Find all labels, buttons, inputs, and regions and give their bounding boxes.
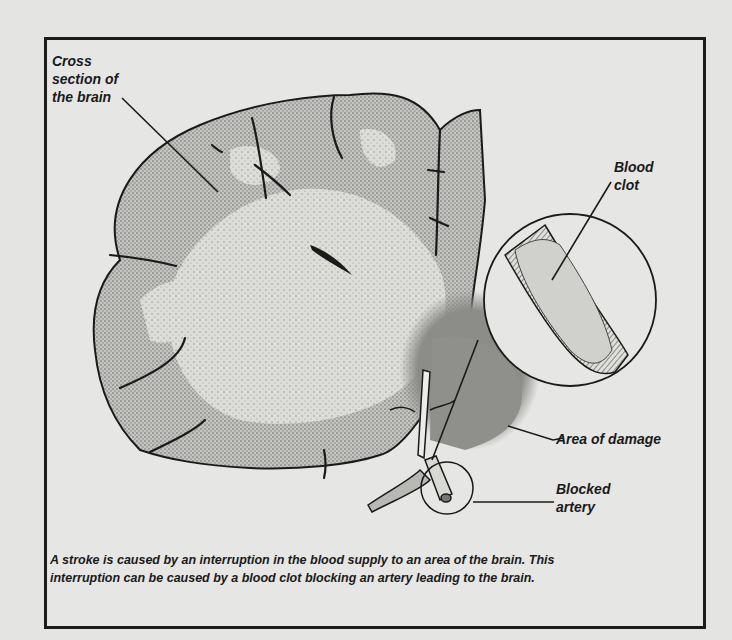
label-cross-section: Cross section of the brain [52, 52, 118, 106]
label-area-of-damage: Area of damage [556, 430, 661, 448]
label-blood-clot: Blood clot [614, 158, 654, 194]
figure-caption: A stroke is caused by an interruption in… [50, 551, 650, 587]
label-blocked-artery: Blocked artery [556, 480, 610, 516]
